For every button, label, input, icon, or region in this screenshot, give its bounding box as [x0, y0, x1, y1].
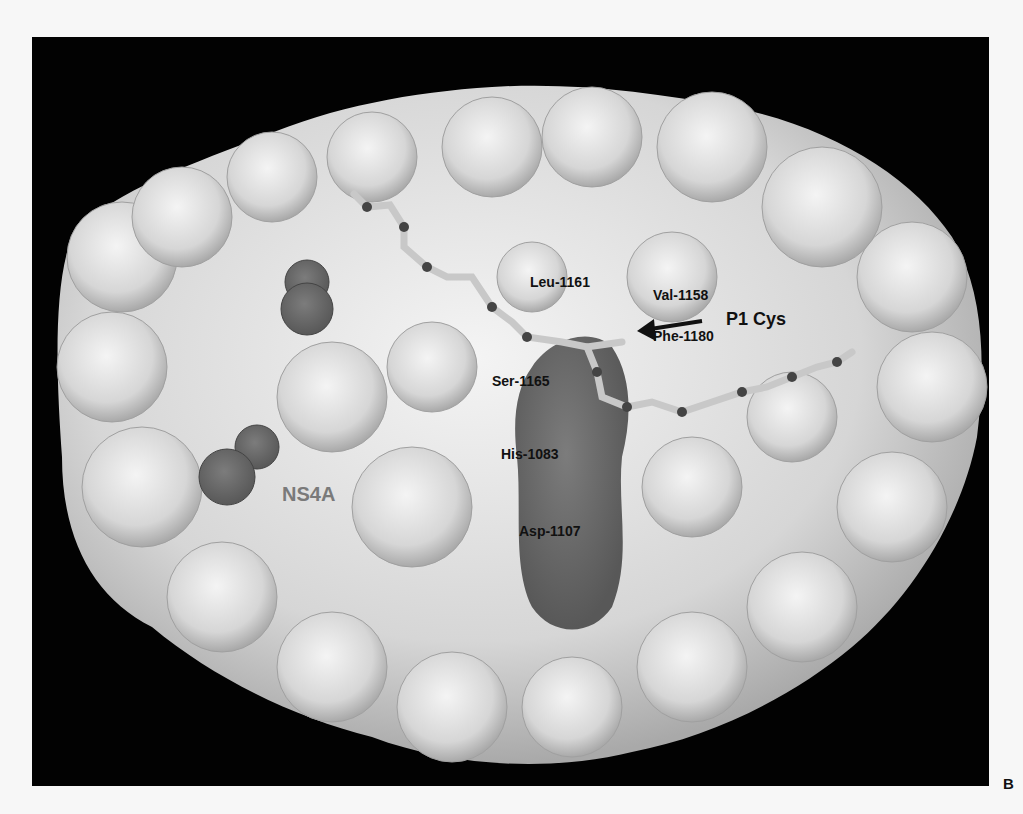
label-ns4a: NS4A — [282, 483, 335, 506]
label-p1-cys: P1 Cys — [726, 309, 786, 330]
label-phe-1180: Phe-1180 — [653, 328, 714, 344]
panel-letter: B — [1003, 775, 1014, 792]
protein-surface-render — [32, 37, 989, 786]
label-leu-1161: Leu-1161 — [530, 274, 590, 290]
label-his-1083: His-1083 — [501, 446, 559, 462]
molecular-surface-panel: Leu-1161 Val-1158 P1 Cys Phe-1180 Ser-11… — [32, 37, 989, 786]
label-asp-1107: Asp-1107 — [519, 523, 580, 539]
label-ser-1165: Ser-1165 — [492, 373, 550, 389]
label-val-1158: Val-1158 — [653, 287, 708, 303]
